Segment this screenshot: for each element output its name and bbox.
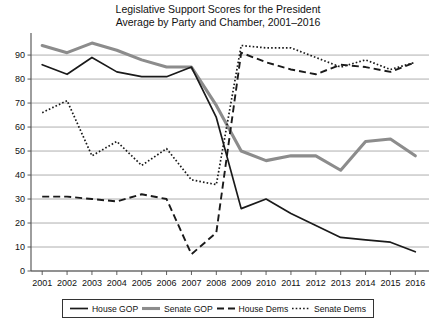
chart-container: Legislative Support Scores for the Presi… — [0, 0, 436, 326]
x-axis-label: 2008 — [206, 278, 226, 288]
legend-swatch-house-dems — [217, 304, 235, 313]
x-axis-label: 2003 — [82, 278, 102, 288]
x-axis-label: 2009 — [231, 278, 251, 288]
legend-swatch-house-gop — [70, 304, 88, 313]
legend-item-house-dems: House Dems — [217, 304, 289, 314]
x-axis-label: 2002 — [57, 278, 77, 288]
legend-label-house-gop: House GOP — [92, 304, 138, 314]
x-axis-label: 2004 — [107, 278, 127, 288]
x-axis-label: 2016 — [405, 278, 425, 288]
x-axis-label: 2010 — [256, 278, 276, 288]
y-axis-label: 80 — [15, 74, 25, 84]
y-axis-label: 10 — [15, 242, 25, 252]
y-axis-label: 30 — [15, 194, 25, 204]
chart-legend: House GOP Senate GOP House Dems Senate D… — [62, 299, 374, 318]
y-axis-label: 20 — [15, 218, 25, 228]
series-line-house-dems — [42, 53, 415, 255]
x-axis-label: 2012 — [306, 278, 326, 288]
x-axis-label: 2005 — [132, 278, 152, 288]
x-axis-label: 2011 — [281, 278, 300, 288]
x-axis-label: 2015 — [380, 278, 400, 288]
x-axis-label: 2006 — [157, 278, 177, 288]
y-axis-label: 70 — [15, 98, 25, 108]
x-axis-label: 2001 — [32, 278, 52, 288]
legend-item-senate-dems: Senate Dems — [292, 304, 366, 314]
y-axis-label: 0 — [20, 266, 25, 276]
x-axis-label: 2007 — [181, 278, 201, 288]
y-axis-label: 40 — [15, 170, 25, 180]
legend-item-house-gop: House GOP — [70, 304, 138, 314]
legend-item-senate-gop: Senate GOP — [142, 304, 213, 314]
x-axis-label: 2014 — [356, 278, 376, 288]
y-axis-label: 50 — [15, 146, 25, 156]
legend-label-senate-dems: Senate Dems — [314, 304, 366, 314]
legend-label-house-dems: House Dems — [239, 304, 289, 314]
legend-swatch-senate-dems — [292, 304, 310, 313]
y-axis-label: 60 — [15, 122, 25, 132]
legend-label-senate-gop: Senate GOP — [164, 304, 213, 314]
line-chart-plot: 0102030405060708090200120022003200420052… — [0, 0, 436, 326]
y-axis-label: 90 — [15, 50, 25, 60]
legend-swatch-senate-gop — [142, 304, 160, 313]
x-axis-label: 2013 — [331, 278, 351, 288]
